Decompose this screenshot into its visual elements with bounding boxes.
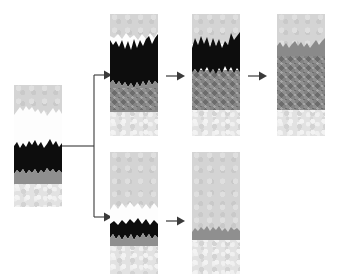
branch-connector [62, 66, 114, 226]
layer-boundaries-upper-2 [192, 14, 240, 136]
arrow-head [177, 72, 185, 81]
arrow-upper-stage1-to-stage2 [166, 70, 186, 82]
diagram-canvas [0, 0, 338, 280]
arrow-lower-stage1-to-final [166, 215, 186, 227]
layer-boundaries-upper-3 [277, 14, 325, 136]
panel-upper-path-stage-2 [192, 14, 240, 136]
panel-upper-path-final [277, 14, 325, 136]
arrow-upper-stage2-to-final [248, 70, 268, 82]
layer-boundaries-source [14, 85, 62, 207]
layer-boundaries-lower-1 [110, 152, 158, 274]
panel-lower-path-stage-1 [110, 152, 158, 274]
panel-lower-path-final [192, 152, 240, 274]
arrow-head [259, 72, 267, 81]
arrow-head [177, 217, 185, 226]
layer-boundaries-lower-2 [192, 152, 240, 274]
layer-mid-gray-mass [110, 88, 158, 110]
panel-upper-path-stage-1 [110, 14, 158, 136]
layer-boundaries-upper-1 [110, 14, 158, 136]
panel-source-column [14, 85, 62, 207]
